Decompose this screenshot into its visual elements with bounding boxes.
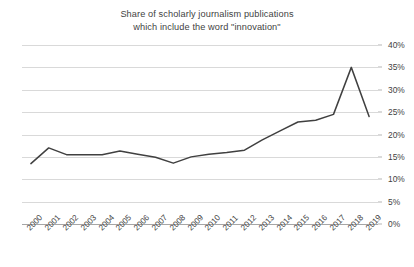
y-axis-label-25: 25% [388,107,405,117]
line-chart: Share of scholarly journalism publicatio… [0,0,414,267]
chart-title: Share of scholarly journalism publicatio… [0,8,414,33]
series-polyline [31,67,369,163]
y-axis-tick-35 [378,67,382,68]
y-axis-label-0: 0% [388,219,400,229]
y-axis-label-30: 30% [388,85,405,95]
chart-title-line-1: Share of scholarly journalism publicatio… [0,8,414,21]
y-axis-labels: 0%5%10%15%20%25%30%35%40% [378,45,414,224]
y-axis-label-35: 35% [388,62,405,72]
y-axis-tick-20 [378,134,382,135]
y-axis-label-40: 40% [388,40,405,50]
y-axis-tick-10 [378,179,382,180]
y-axis-tick-30 [378,89,382,90]
plot-area [22,45,378,224]
y-axis-label-15: 15% [388,152,405,162]
y-axis-label-10: 10% [388,174,405,184]
y-axis-label-5: 5% [388,197,400,207]
chart-title-line-2: which include the word "innovation" [0,21,414,34]
y-axis-tick-15 [378,156,382,157]
y-axis-tick-40 [378,45,382,46]
y-axis-tick-5 [378,201,382,202]
y-axis-label-20: 20% [388,130,405,140]
y-axis-tick-25 [378,112,382,113]
x-axis-labels: 2000200120022003200420052006200720082009… [22,226,378,267]
series-line-innovation [22,45,378,224]
